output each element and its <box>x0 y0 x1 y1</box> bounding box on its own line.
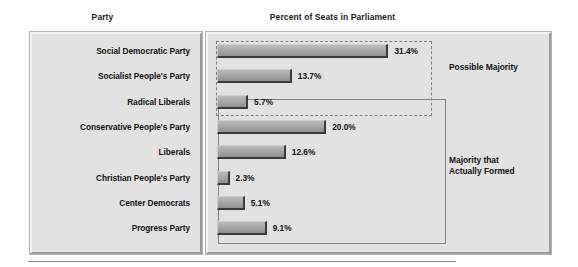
bar <box>217 69 292 83</box>
bar-value-label: 20.0% <box>332 121 356 133</box>
group-label-actual-line1: Majority that <box>449 155 515 166</box>
column-header-percent: Percent of Seats in Parliament <box>205 12 460 22</box>
party-label: Radical Liberals <box>127 96 190 108</box>
party-label-list: Social Democratic PartySocialist People'… <box>30 32 202 254</box>
group-label-actual-line2: Actually Formed <box>449 166 515 177</box>
group-label-possible-majority: Possible Majority <box>449 62 518 73</box>
bar <box>217 145 286 159</box>
bar-value-label: 2.3% <box>236 172 255 184</box>
party-label: Progress Party <box>132 222 190 234</box>
party-label: Social Democratic Party <box>96 45 190 57</box>
bar-value-label: 13.7% <box>298 70 322 82</box>
party-label: Socialist People's Party <box>98 70 190 82</box>
bar <box>217 221 267 235</box>
group-label-actual-majority: Majority that Actually Formed <box>449 155 515 177</box>
parliament-seats-figure: Party Percent of Seats in Parliament Soc… <box>0 0 578 267</box>
bar-value-label: 12.6% <box>292 146 316 158</box>
party-label: Center Democrats <box>119 197 190 209</box>
bottom-divider <box>28 261 456 262</box>
party-label: Christian People's Party <box>96 172 190 184</box>
bar-value-label: 31.4% <box>394 45 418 57</box>
bar <box>217 171 230 185</box>
bar <box>217 44 388 58</box>
bar-value-label: 5.7% <box>254 96 273 108</box>
bar-value-label: 5.1% <box>251 197 270 209</box>
bar <box>217 95 248 109</box>
column-header-party: Party <box>0 12 205 22</box>
party-label: Conservative People's Party <box>80 121 190 133</box>
bar <box>217 196 245 210</box>
bar-value-label: 9.1% <box>273 222 292 234</box>
bar <box>217 120 326 134</box>
party-label: Liberals <box>159 146 190 158</box>
